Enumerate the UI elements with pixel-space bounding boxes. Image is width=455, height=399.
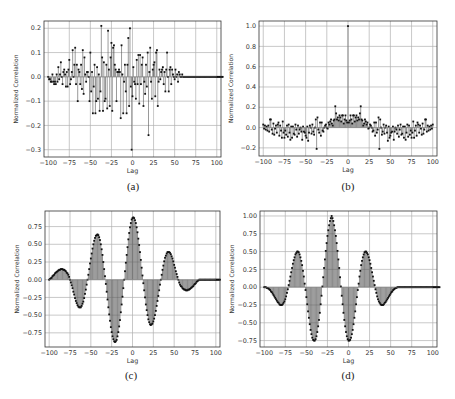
stem-plot-d: −100−75−50−250255075100−0.75−0.50−0.250.… (227, 200, 455, 370)
y-axis-label: Normalized Correlation (13, 244, 20, 313)
svg-text:−100: −100 (255, 349, 273, 357)
subfigure-caption-a: (a) (103, 180, 163, 192)
svg-text:−0.50: −0.50 (22, 311, 42, 319)
x-tick-labels: −100−75−50−250255075100 (40, 349, 222, 357)
svg-text:0.0: 0.0 (31, 73, 41, 81)
x-axis-label: Lag (343, 357, 355, 365)
chart-panel-d: −100−75−50−250255075100−0.75−0.50−0.250.… (227, 200, 455, 370)
svg-text:−0.75: −0.75 (22, 329, 42, 337)
svg-text:0.25: 0.25 (28, 258, 42, 266)
svg-text:−100: −100 (254, 158, 272, 166)
svg-text:0.2: 0.2 (246, 103, 256, 111)
svg-text:−75: −75 (63, 159, 77, 167)
svg-text:1.0: 1.0 (246, 22, 256, 30)
svg-text:0.75: 0.75 (243, 230, 257, 238)
svg-text:−0.2: −0.2 (240, 144, 256, 152)
svg-text:0.00: 0.00 (28, 276, 42, 284)
svg-text:−0.1: −0.1 (25, 97, 41, 105)
svg-text:100: 100 (427, 158, 439, 166)
svg-text:100: 100 (211, 159, 223, 167)
stem-markers (47, 25, 223, 151)
svg-text:0: 0 (130, 349, 134, 357)
y-axis-label: Normalized Correlation (228, 244, 235, 313)
svg-text:−25: −25 (105, 159, 119, 167)
svg-text:−25: −25 (105, 349, 119, 357)
svg-text:−0.2: −0.2 (25, 122, 41, 130)
svg-text:0.2: 0.2 (31, 24, 41, 32)
svg-text:−75: −75 (278, 158, 292, 166)
x-axis-label: Lag (342, 166, 354, 174)
svg-text:50: 50 (387, 349, 395, 357)
svg-text:75: 75 (191, 349, 199, 357)
svg-text:0.50: 0.50 (243, 248, 257, 256)
svg-text:25: 25 (150, 159, 158, 167)
y-axis-label: Normalized Correlation (12, 54, 19, 123)
svg-text:25: 25 (149, 349, 157, 357)
svg-text:100: 100 (427, 349, 439, 357)
svg-text:−50: −50 (300, 349, 314, 357)
svg-text:−50: −50 (299, 158, 313, 166)
y-tick-labels: −0.75−0.50−0.250.000.250.500.75 (22, 223, 42, 337)
svg-text:75: 75 (408, 158, 416, 166)
svg-text:−25: −25 (321, 349, 335, 357)
chart-panel-c: −100−75−50−250255075100−0.75−0.50−0.250.… (0, 200, 228, 370)
svg-text:0.0: 0.0 (246, 124, 256, 132)
svg-text:−100: −100 (39, 159, 57, 167)
stem-plot-b: −100−75−50−250255075100−0.20.00.20.40.60… (227, 0, 455, 178)
svg-text:−75: −75 (279, 349, 293, 357)
svg-text:−0.75: −0.75 (237, 337, 257, 345)
stem-series (264, 216, 439, 341)
svg-text:1.00: 1.00 (243, 212, 257, 220)
svg-text:0.1: 0.1 (31, 49, 41, 57)
svg-text:0.50: 0.50 (28, 240, 42, 248)
svg-text:0.6: 0.6 (246, 63, 256, 71)
subfigure-caption-d: (d) (318, 369, 378, 381)
svg-text:0.25: 0.25 (243, 266, 257, 274)
y-tick-labels: −0.20.00.20.40.60.81.0 (240, 22, 256, 152)
svg-text:50: 50 (170, 349, 178, 357)
svg-text:−50: −50 (84, 349, 98, 357)
svg-text:25: 25 (365, 158, 373, 166)
x-tick-labels: −100−75−50−250255075100 (39, 159, 222, 167)
svg-text:75: 75 (408, 349, 416, 357)
stem-plot-c: −100−75−50−250255075100−0.75−0.50−0.250.… (0, 200, 228, 370)
x-tick-labels: −100−75−50−250255075100 (255, 349, 438, 357)
svg-text:0: 0 (130, 159, 134, 167)
svg-text:−0.50: −0.50 (237, 319, 257, 327)
svg-text:0: 0 (346, 349, 350, 357)
chart-panel-b: −100−75−50−250255075100−0.20.00.20.40.60… (227, 0, 455, 178)
x-tick-labels: −100−75−50−250255075100 (254, 158, 438, 166)
svg-text:−50: −50 (84, 159, 98, 167)
svg-text:0.00: 0.00 (243, 283, 257, 291)
svg-text:25: 25 (366, 349, 374, 357)
subfigure-caption-c: (c) (101, 369, 161, 381)
svg-text:−0.25: −0.25 (22, 294, 42, 302)
svg-text:−0.3: −0.3 (25, 146, 41, 154)
svg-text:−25: −25 (320, 158, 334, 166)
y-tick-labels: −0.75−0.50−0.250.000.250.500.751.00 (237, 212, 257, 345)
svg-text:−100: −100 (40, 349, 58, 357)
y-axis-label: Normalized Correlation (227, 54, 234, 123)
svg-text:0: 0 (346, 158, 350, 166)
svg-text:0.75: 0.75 (28, 223, 42, 231)
y-tick-labels: −0.3−0.2−0.10.00.10.2 (25, 24, 41, 153)
stem-plot-a: −100−75−50−250255075100−0.3−0.2−0.10.00.… (0, 0, 228, 178)
svg-text:−0.25: −0.25 (237, 301, 257, 309)
x-axis-label: Lag (127, 357, 139, 365)
svg-text:50: 50 (171, 159, 179, 167)
svg-text:50: 50 (386, 158, 394, 166)
x-axis-label: Lag (127, 167, 139, 175)
subfigure-caption-b: (b) (318, 180, 378, 192)
svg-text:0.4: 0.4 (246, 83, 256, 91)
chart-panel-a: −100−75−50−250255075100−0.3−0.2−0.10.00.… (0, 0, 228, 178)
svg-text:75: 75 (192, 159, 200, 167)
stem-series (48, 26, 222, 150)
svg-text:−75: −75 (63, 349, 77, 357)
svg-text:0.8: 0.8 (246, 43, 256, 51)
svg-text:100: 100 (210, 349, 222, 357)
